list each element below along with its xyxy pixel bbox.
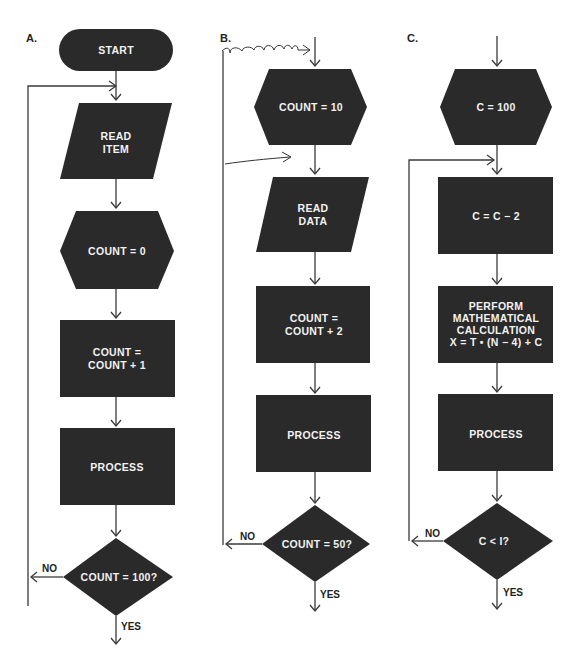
hand-drawn-scribble [222, 45, 310, 53]
yes-label: YES [503, 587, 523, 598]
count-zero-text: COUNT = 0 [88, 245, 146, 257]
c-100-text: C = 100 [476, 101, 515, 113]
process-text: PROCESS [90, 461, 143, 473]
calc-text-3: CALCULATION [457, 324, 535, 336]
calc-text-2: MATHEMATICAL [453, 312, 540, 324]
process-text: PROCESS [469, 428, 522, 440]
calc-text-1: PERFORM [469, 300, 524, 312]
yes-label: YES [320, 589, 340, 600]
count-increment-text-2: COUNT + 1 [88, 359, 146, 371]
read-data-text-1: READ [298, 202, 329, 214]
count-increment-text-1: COUNT = [93, 346, 141, 358]
panel-a-label: A. [26, 32, 37, 44]
count-add-two-text-2: COUNT + 2 [285, 325, 343, 337]
panel-b: B. COUNT = 10 READ DATA COUNT = COUNT + … [220, 32, 371, 611]
decision-text: C < I? [479, 535, 510, 547]
no-label: NO [425, 528, 440, 539]
hand-drawn-arrow [225, 157, 290, 164]
flowchart-figure: A. START READ ITEM COUNT = 0 COUNT = COU… [0, 0, 573, 663]
panel-c: C. C = 100 C = C − 2 PERFORM MATHEMATICA… [407, 32, 553, 609]
count-add-two-text-1: COUNT = [290, 312, 338, 324]
no-label: NO [240, 531, 255, 542]
yes-label: YES [121, 621, 141, 632]
panel-a: A. START READ ITEM COUNT = 0 COUNT = COU… [26, 29, 175, 644]
read-data-text-2: DATA [299, 215, 328, 227]
start-terminal-text: START [98, 44, 134, 56]
panel-b-label: B. [220, 32, 231, 44]
calc-text-4: X = T • (N − 4) + C [450, 336, 543, 348]
panel-c-label: C. [407, 32, 418, 44]
decision-text: COUNT = 100? [81, 571, 158, 583]
count-ten-text: COUNT = 10 [279, 101, 343, 113]
no-label: NO [42, 563, 57, 574]
read-item-text-1: READ [101, 130, 132, 142]
read-item-text-2: ITEM [103, 143, 129, 155]
c-decrement-text: C = C − 2 [472, 210, 520, 222]
process-text: PROCESS [287, 429, 340, 441]
decision-text: COUNT = 50? [282, 538, 353, 550]
